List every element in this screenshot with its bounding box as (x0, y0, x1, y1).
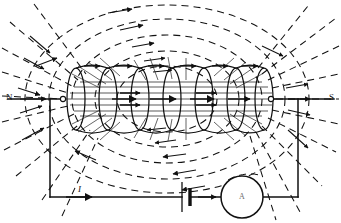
solenoid-field-diagram (0, 0, 341, 223)
field-arrows-bottom (75, 128, 205, 190)
battery-cell (182, 182, 190, 212)
ammeter-label: A (239, 192, 245, 201)
field-arrows-top (36, 9, 283, 72)
field-lines-right-fan (250, 6, 339, 220)
terminal-right (268, 96, 273, 101)
south-pole-label: S (329, 92, 334, 102)
field-arrows-left-fan (18, 36, 50, 140)
current-label: I (78, 184, 81, 194)
terminal-left (60, 96, 65, 101)
north-pole-label: N (6, 92, 13, 102)
circuit-wires (8, 99, 334, 197)
figure-canvas: N S I A (0, 0, 341, 223)
